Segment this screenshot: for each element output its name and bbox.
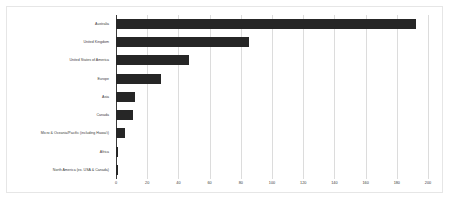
bar	[116, 55, 189, 65]
bar	[116, 74, 161, 84]
bar	[116, 147, 118, 157]
x-tick-label: 200	[425, 181, 431, 185]
x-tick-label: 0	[115, 181, 117, 185]
x-tick-label: 80	[239, 181, 243, 185]
bar	[116, 110, 133, 120]
category-label: United Kingdom	[7, 33, 113, 51]
bar-row	[116, 15, 428, 33]
bar	[116, 92, 135, 102]
bar-series	[116, 15, 428, 179]
bar	[116, 165, 118, 175]
x-tick-label: 120	[300, 181, 306, 185]
x-tick-label: 20	[145, 181, 149, 185]
x-tick-label: 60	[207, 181, 211, 185]
bar	[116, 37, 249, 47]
bar-row	[116, 88, 428, 106]
category-label: Micro & Oceania/Pacific (including Hawai…	[7, 124, 113, 142]
bar-row	[116, 124, 428, 142]
category-label: Africa	[7, 143, 113, 161]
x-axis-tick-labels: 020406080100120140160180200	[116, 181, 428, 193]
category-label: Asia	[7, 88, 113, 106]
x-tick-label: 140	[331, 181, 337, 185]
plot-area	[116, 15, 428, 179]
bar	[116, 128, 125, 138]
bar-row	[116, 161, 428, 179]
category-axis-labels: AustraliaUnited KingdomUnited States of …	[7, 15, 113, 179]
bar	[116, 19, 416, 29]
category-label: Australia	[7, 15, 113, 33]
x-tick-label: 40	[176, 181, 180, 185]
category-label: Canada	[7, 106, 113, 124]
category-label: North America (ex. USA & Canada)	[7, 161, 113, 179]
category-label: Europe	[7, 70, 113, 88]
gridline	[428, 15, 429, 179]
x-tick-label: 100	[269, 181, 275, 185]
bar-row	[116, 143, 428, 161]
bar-row	[116, 33, 428, 51]
bar-row	[116, 70, 428, 88]
bar-row	[116, 51, 428, 69]
category-label: United States of America	[7, 51, 113, 69]
bar-row	[116, 106, 428, 124]
chart-frame: AustraliaUnited KingdomUnited States of …	[6, 6, 443, 193]
x-tick-label: 180	[394, 181, 400, 185]
x-tick-label: 160	[362, 181, 368, 185]
